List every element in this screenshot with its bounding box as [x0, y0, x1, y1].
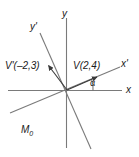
vector-v-label: V(2,4): [73, 61, 100, 71]
vector-rotation-diagram: y y' x' x V'(–2,3) V(2,4) α M0: [0, 0, 139, 157]
plane-m0-label: M0: [21, 125, 33, 137]
vector-v-prime-label: V'(–2,3): [5, 61, 40, 71]
y-prime-axis-label: y': [30, 22, 37, 32]
x-axis-label: x: [126, 85, 131, 95]
y-axis-label: y: [62, 9, 67, 19]
plane-m0-subscript: 0: [29, 130, 33, 137]
vector-v-prime-arrow: [49, 66, 68, 91]
angle-alpha-label: α: [90, 79, 95, 88]
x-prime-axis-label: x': [121, 59, 128, 69]
